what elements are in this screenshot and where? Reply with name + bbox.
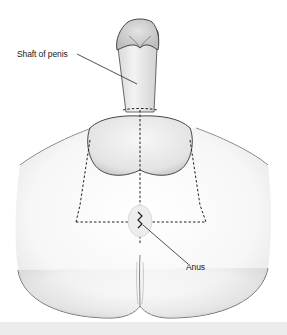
penis: [117, 19, 159, 112]
label-shaft-of-penis: Shaft of penis: [17, 49, 68, 59]
bottom-band: [0, 322, 287, 335]
anus: [128, 205, 152, 237]
label-anus: Anus: [186, 262, 205, 272]
anatomical-diagram: Shaft of penis Anus: [0, 0, 287, 335]
